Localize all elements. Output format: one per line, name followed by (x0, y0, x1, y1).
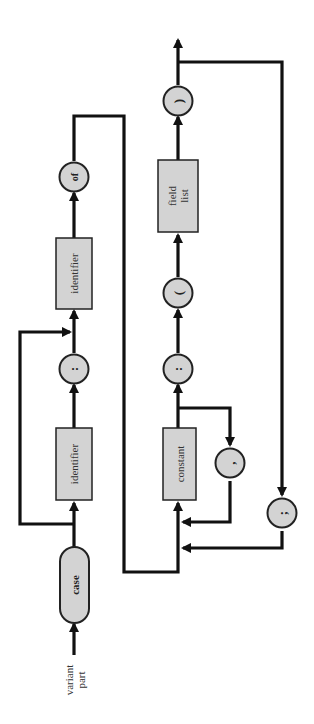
entry-label-line2: part (75, 671, 87, 688)
node-case-label: case (69, 575, 81, 595)
node-colon-2: : (164, 355, 193, 384)
node-identifier-2-label: identifier (68, 253, 80, 294)
semicolon-to-constant (183, 531, 282, 548)
node-of-label: of (69, 172, 80, 181)
entry-label-line1: variant (63, 665, 75, 696)
node-identifier-1: identifier (56, 428, 92, 500)
node-rparen-label: ) (171, 99, 186, 103)
node-identifier-2: identifier (56, 238, 92, 309)
node-lparen: ( (164, 279, 193, 308)
node-case: case (60, 547, 89, 623)
node-constant: constant (163, 428, 196, 500)
node-semicolon: ; (268, 499, 297, 528)
node-field-list: field list (158, 160, 198, 232)
node-field-list-label-line2: list (178, 189, 190, 202)
entry-label: variant part (63, 665, 87, 696)
node-identifier-1-label: identifier (68, 444, 80, 485)
node-field-list-label-line1: field (166, 185, 178, 206)
node-colon-1: : (60, 355, 89, 384)
node-semicolon-label: ; (275, 511, 290, 515)
node-of: of (60, 163, 89, 192)
node-rparen: ) (164, 87, 193, 116)
node-colon-2-label: : (171, 367, 185, 371)
node-constant-label: constant (174, 446, 186, 483)
node-comma-label: , (223, 461, 238, 464)
node-colon-1-label: : (67, 367, 81, 371)
node-lparen-label: ( (171, 291, 186, 295)
node-comma: , (216, 449, 245, 478)
variant-part-syntax-diagram: case identifier : identifier of constant… (0, 0, 314, 724)
